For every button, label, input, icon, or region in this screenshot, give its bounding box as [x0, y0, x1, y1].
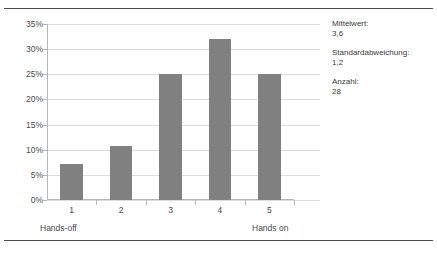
bar	[258, 74, 281, 200]
y-axis-line	[47, 24, 48, 200]
x-axis-anchor-left: Hands-off	[40, 224, 77, 233]
x-tick-label: 5	[245, 206, 294, 215]
y-tick-label: 10%	[1, 145, 43, 154]
statistic-item: Mittelwert:3,6	[332, 19, 436, 39]
bar	[60, 164, 83, 200]
bar	[159, 74, 182, 200]
statistic-value: 1,2	[332, 58, 436, 68]
y-tick-label: 30%	[1, 45, 43, 54]
x-tick-label: 4	[195, 206, 244, 215]
bar	[209, 39, 232, 200]
gridline	[47, 200, 320, 201]
chart-figure: 0%5%10%15%20%25%30%35% 12345 Hands-off H…	[0, 0, 437, 254]
y-axis-ticks: 0%5%10%15%20%25%30%35%	[0, 0, 43, 254]
statistic-label: Anzahl:	[332, 77, 436, 87]
y-tick-label: 0%	[1, 196, 43, 205]
y-tick-label: 25%	[1, 70, 43, 79]
x-tick-mark	[195, 200, 196, 205]
y-tick-label: 15%	[1, 120, 43, 129]
y-tick-label: 5%	[1, 171, 43, 180]
statistic-item: Standardabweichung:1,2	[332, 48, 436, 68]
y-tick-label: 35%	[1, 20, 43, 29]
x-tick-mark	[146, 200, 147, 205]
x-tick-label: 1	[47, 206, 96, 215]
x-axis-anchor-right: Hands on	[252, 224, 288, 233]
plot-area	[47, 24, 294, 200]
x-tick-mark	[294, 200, 295, 205]
bar	[110, 146, 133, 200]
statistic-item: Anzahl:28	[332, 77, 436, 97]
statistic-label: Standardabweichung:	[332, 48, 436, 58]
top-divider	[4, 8, 433, 9]
statistics-panel: Mittelwert:3,6Standardabweichung:1,2Anza…	[332, 19, 436, 106]
x-tick-label: 2	[96, 206, 145, 215]
statistic-value: 28	[332, 87, 436, 97]
x-tick-mark	[96, 200, 97, 205]
bottom-divider	[4, 240, 433, 241]
statistic-label: Mittelwert:	[332, 19, 436, 29]
x-tick-mark	[245, 200, 246, 205]
y-tick-label: 20%	[1, 95, 43, 104]
y-tick-mark	[43, 200, 47, 201]
x-tick-label: 3	[146, 206, 195, 215]
statistic-value: 3,6	[332, 29, 436, 39]
